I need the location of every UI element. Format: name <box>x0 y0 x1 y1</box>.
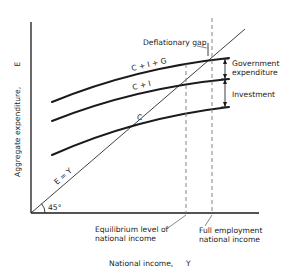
y-axis-label: Aggregate expenditure, E <box>13 61 22 177</box>
y-axis-title: Aggregate expenditure, <box>13 87 22 177</box>
y-axis-symbol: E <box>13 61 22 66</box>
government-expenditure-bracket <box>221 59 229 79</box>
forty-five-line-label: E = Y <box>52 166 74 187</box>
arrow-down-icon <box>223 102 227 107</box>
angle-arc <box>42 204 46 213</box>
government-label-line2: expenditure <box>232 68 278 77</box>
label-c: C <box>137 113 142 122</box>
investment-bracket <box>221 79 229 107</box>
deflationary-gap-diagram: Aggregate expenditure, E National income… <box>0 0 289 278</box>
x-axis-title: National income, <box>109 259 173 268</box>
investment-label: Investment <box>232 90 275 99</box>
equilibrium-label-line1: Equilibrium level of <box>95 225 169 234</box>
full-employment-label-line2: national income <box>199 235 260 244</box>
arrow-up-icon <box>223 59 227 64</box>
deflationary-gap-label: Deflationary gap <box>143 38 207 47</box>
equilibrium-leader <box>168 215 186 228</box>
full-employment-label-line1: Full employment <box>199 226 262 235</box>
x-axis-symbol: Y <box>185 259 191 268</box>
angle-label: 45° <box>48 203 62 212</box>
label-c-plus-i: C + I <box>131 79 151 92</box>
government-label-line1: Government <box>232 59 279 68</box>
full-employment-leader <box>205 215 212 226</box>
equilibrium-label-line2: national income <box>95 234 156 243</box>
axes <box>31 22 259 213</box>
